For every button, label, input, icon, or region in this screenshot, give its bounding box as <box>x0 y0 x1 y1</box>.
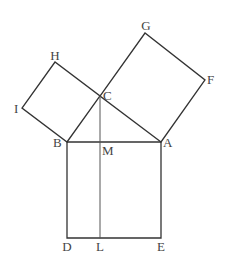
label-f: F <box>207 72 214 87</box>
square-bchi <box>22 62 100 142</box>
label-e: E <box>157 239 165 254</box>
label-i: I <box>14 101 18 116</box>
label-b: B <box>53 135 62 150</box>
label-h: H <box>50 48 59 63</box>
label-m: M <box>102 143 114 158</box>
label-c: C <box>103 88 112 103</box>
square-acgf <box>100 33 205 142</box>
label-g: G <box>141 18 150 33</box>
label-l: L <box>96 239 104 254</box>
label-d: D <box>62 239 71 254</box>
pythagoras-diagram: G F H I C B M A D L E <box>0 0 225 272</box>
square-bdea <box>67 142 161 238</box>
label-a: A <box>163 135 173 150</box>
